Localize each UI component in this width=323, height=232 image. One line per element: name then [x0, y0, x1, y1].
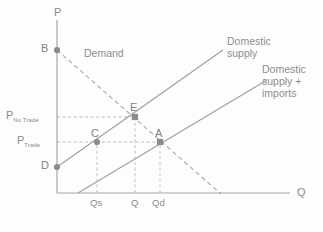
- curve-label-supply-plus-imports: Domestic supply + imports: [262, 64, 306, 99]
- point-label-c: C: [91, 127, 99, 139]
- trade-diagram-figure: P Q PNo Trade PTrade B D C E A Qs Q Qd D…: [0, 0, 323, 232]
- tick-label-qd: Qd: [152, 198, 165, 209]
- curve-label-supply-plus-imports-line2: supply +: [262, 76, 306, 88]
- tick-label-q: Q: [131, 198, 138, 209]
- curve-label-supply-plus-imports-line1: Domestic: [262, 64, 306, 76]
- y-axis-label: P: [54, 6, 61, 18]
- tick-label-qs: Qs: [90, 198, 102, 209]
- data-point-d: [54, 164, 60, 170]
- price-label-no-trade-sub: No Trade: [13, 117, 38, 123]
- curve-label-domestic-supply-line2: supply: [227, 48, 271, 60]
- point-label-d: D: [41, 159, 49, 171]
- x-axis-label: Q: [297, 186, 306, 198]
- curve-label-demand: Demand: [84, 48, 124, 60]
- data-point-c: [94, 139, 100, 145]
- curve-label-domestic-supply-line1: Domestic: [227, 36, 271, 48]
- price-label-no-trade: PNo Trade: [6, 109, 39, 121]
- price-label-trade-sub: Trade: [24, 142, 40, 148]
- curve-label-domestic-supply: Domestic supply: [227, 36, 271, 60]
- curve-label-supply-plus-imports-line3: imports: [262, 88, 306, 100]
- data-point-e: [132, 114, 138, 120]
- data-point-b: [54, 47, 60, 53]
- point-label-a: A: [155, 127, 162, 139]
- data-point-a: [157, 139, 163, 145]
- domestic-supply-plus-imports-curve: [78, 80, 267, 193]
- domestic-supply-curve: [57, 50, 223, 167]
- point-label-b: B: [41, 42, 48, 54]
- price-label-trade: PTrade: [17, 134, 40, 146]
- point-label-e: E: [130, 101, 137, 113]
